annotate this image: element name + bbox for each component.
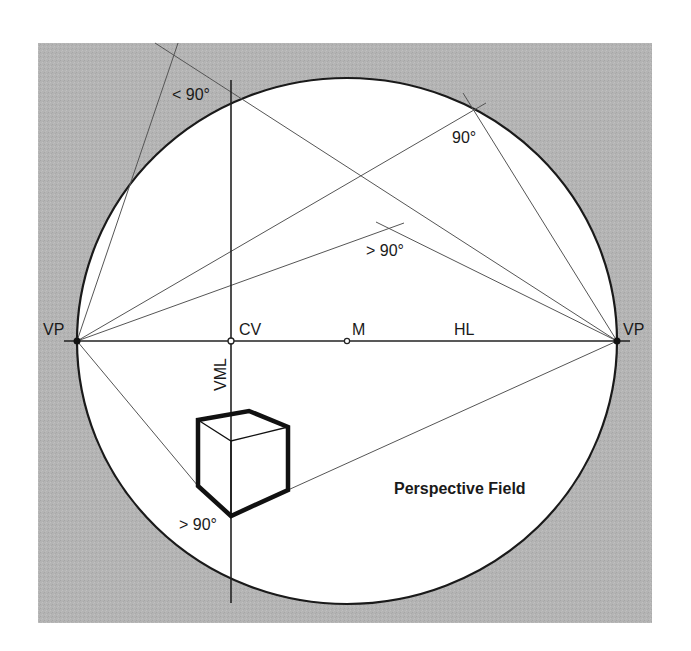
perspective-field-diagram: VP VP CV M HL VML < 90° 90° > 90° > 90° … bbox=[0, 0, 691, 651]
field-title: Perspective Field bbox=[394, 480, 526, 497]
angle-top-left-label: < 90° bbox=[172, 86, 210, 103]
vp-right-point bbox=[614, 338, 621, 345]
m-point bbox=[344, 338, 349, 343]
hl-label: HL bbox=[454, 321, 475, 338]
vp-right-label: VP bbox=[623, 321, 644, 338]
cv-point bbox=[228, 338, 234, 344]
m-label: M bbox=[352, 321, 365, 338]
cv-label: CV bbox=[239, 321, 262, 338]
angle-bottom-label: > 90° bbox=[179, 516, 217, 533]
vml-label: VML bbox=[212, 358, 229, 391]
angle-middle-label: > 90° bbox=[366, 242, 404, 259]
vp-left-point bbox=[74, 338, 81, 345]
angle-top-right-label: 90° bbox=[452, 129, 476, 146]
vp-left-label: VP bbox=[43, 321, 64, 338]
